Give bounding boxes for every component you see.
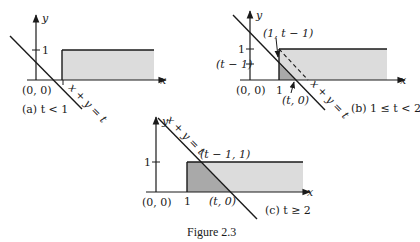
shaded-region [279,49,387,80]
x-axis-label: x [400,74,407,87]
pointer-arrow-1-t-minus-1 [276,38,278,57]
x-tick-label-1: 1 [184,195,191,208]
x-axis-label: x [160,74,167,87]
y-tick-label: 1 [42,44,49,57]
figure-caption: Figure 2.3 [187,225,236,239]
figure-2-3: y x 1 (0, 0) x + y = t (a) t < 1 y x 1 (… [0,0,420,242]
panel-caption: (b) 1 ≤ t < 2 [351,102,420,115]
y-tick-label-t-minus-1: (t − 1) [216,58,252,71]
point-label-t-minus-1-1: (t − 1, 1) [200,148,250,161]
panel-caption: (c) t ≥ 2 [265,204,311,217]
panel-a: y x 1 (0, 0) x + y = t (a) t < 1 [10,12,167,126]
panel-c: y x 1 (0, 0) 1 (t − 1, 1) (t, 0) x + y =… [142,113,314,219]
origin-label: (0, 0) [236,84,266,97]
origin-label: (0, 0) [22,84,52,97]
y-tick-label-1: 1 [144,156,151,169]
point-label-1-t-minus-1: (1, t − 1) [263,27,313,40]
line-label: x + y = t [66,81,110,126]
origin-label: (0, 0) [142,196,172,209]
shaded-region [62,50,154,80]
panel-b: y x 1 (t − 1) (0, 0) 1 (1, t − 1) (t, 0)… [216,9,420,122]
y-axis-label: y [255,9,263,22]
pointer-arrow-t-0 [291,82,294,93]
y-axis-label: y [41,12,49,25]
x-axis-label: x [307,186,314,199]
panel-caption: (a) t < 1 [22,103,68,116]
point-label-t-0: (t, 0) [209,195,236,208]
line-label: x + y = t [164,113,208,158]
point-label-t-0: (t, 0) [282,94,309,107]
y-tick-label-1: 1 [238,43,245,56]
